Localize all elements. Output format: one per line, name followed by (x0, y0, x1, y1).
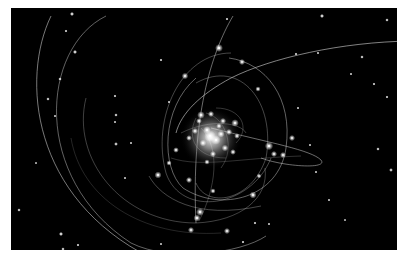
cluster-star (236, 135, 237, 136)
background-star (71, 13, 72, 14)
background-star (131, 143, 132, 144)
background-star (47, 98, 48, 99)
background-star (78, 245, 79, 246)
background-star (161, 244, 162, 245)
background-star (169, 102, 170, 103)
background-star (243, 242, 244, 243)
background-star (345, 220, 346, 221)
orbiting-star (168, 162, 169, 163)
orbiting-star (199, 211, 201, 213)
star-orbits-svg (11, 8, 397, 250)
orbiting-star (190, 229, 192, 231)
orbiting-star (157, 174, 159, 176)
cluster-star (224, 147, 226, 149)
background-star (255, 223, 256, 224)
background-star (115, 114, 116, 115)
background-star (298, 108, 299, 109)
orbiting-star (196, 217, 198, 219)
cluster-star (218, 125, 219, 126)
orbiting-star (291, 137, 293, 139)
background-star (321, 15, 322, 16)
cluster-star (232, 151, 233, 152)
orbit-path (149, 176, 261, 210)
background-star (269, 224, 270, 225)
background-star (310, 145, 311, 146)
background-star (329, 200, 330, 201)
background-star (351, 74, 352, 75)
cluster-star (222, 120, 223, 121)
cluster-star (228, 131, 229, 132)
background-star (66, 31, 67, 32)
orbiting-star (273, 153, 275, 155)
background-star (60, 233, 61, 234)
cluster-star (188, 137, 189, 138)
background-star (390, 169, 391, 170)
background-star (115, 122, 116, 123)
orbit-visualization-panel (11, 8, 397, 250)
orbiting-star (241, 61, 243, 63)
background-star (318, 53, 319, 54)
cluster-star (234, 122, 236, 124)
orbit-path (37, 16, 151, 250)
orbiting-star (175, 149, 176, 150)
background-star (386, 19, 387, 20)
background-star (227, 19, 228, 20)
orbiting-star (184, 75, 186, 77)
orbiting-star (258, 175, 259, 176)
orbiting-star (218, 47, 220, 49)
background-star (74, 51, 75, 52)
cluster-star (210, 113, 211, 114)
background-star (62, 248, 63, 249)
background-star (387, 97, 388, 98)
cluster-star (206, 129, 208, 131)
background-star (361, 56, 362, 57)
background-star (125, 178, 126, 179)
orbiting-star (206, 161, 207, 162)
orbiting-star (257, 88, 258, 89)
orbiting-star (282, 154, 284, 156)
cluster-star (198, 120, 199, 121)
background-star (377, 148, 378, 149)
background-star (316, 172, 317, 173)
background-star (18, 209, 19, 210)
orbiting-star (252, 194, 254, 196)
cluster-star (200, 114, 202, 116)
background-star (161, 60, 162, 61)
orbiting-star (212, 190, 213, 191)
background-star (36, 163, 37, 164)
cluster-star (209, 135, 212, 138)
cluster-star (202, 142, 204, 144)
orbiting-star (268, 145, 270, 147)
cluster-star (220, 133, 222, 135)
background-star (59, 78, 60, 79)
orbiting-star (226, 230, 228, 232)
cluster-star (212, 153, 213, 154)
background-star (296, 54, 297, 55)
background-star (55, 116, 56, 117)
background-star (374, 84, 375, 85)
orbiting-star (188, 179, 190, 181)
cluster-star (194, 130, 195, 131)
background-star (115, 143, 116, 144)
cluster-star (215, 139, 217, 141)
background-star (115, 96, 116, 97)
